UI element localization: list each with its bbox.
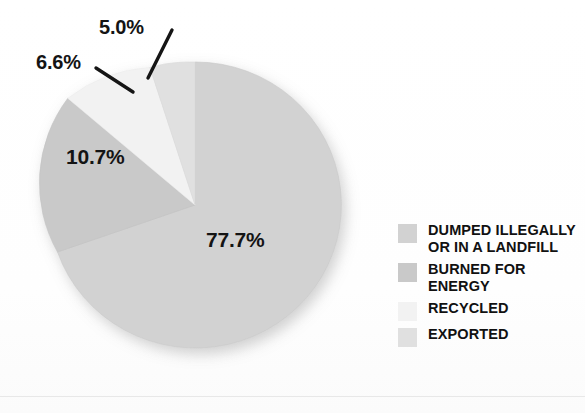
pie-plot-area: 77.7% 10.7% 6.6% 5.0% — [0, 0, 390, 400]
chart-legend: DUMPED ILLEGALLY OR IN A LANDFILL BURNED… — [398, 222, 578, 352]
legend-label-recycled: RECYCLED — [428, 300, 509, 317]
legend-label-dumped: DUMPED ILLEGALLY OR IN A LANDFILL — [428, 222, 578, 256]
legend-swatch-burned — [398, 263, 417, 282]
slice-value-label-recycled: 6.6% — [36, 51, 81, 74]
slice-value-label-burned: 10.7% — [66, 145, 125, 169]
slice-value-label-exported: 5.0% — [99, 16, 144, 39]
legend-label-exported: EXPORTED — [428, 326, 509, 343]
slice-value-label-dumped: 77.7% — [206, 228, 265, 252]
pie-slices-group — [39, 62, 341, 348]
legend-item-dumped[interactable]: DUMPED ILLEGALLY OR IN A LANDFILL — [398, 222, 578, 256]
legend-item-exported[interactable]: EXPORTED — [398, 326, 578, 347]
legend-swatch-dumped — [398, 224, 417, 243]
pie-chart-figure: 77.7% 10.7% 6.6% 5.0% DUMPED ILLEGALLY O… — [0, 0, 585, 413]
legend-item-recycled[interactable]: RECYCLED — [398, 300, 578, 321]
legend-label-burned: BURNED FOR ENERGY — [428, 261, 578, 295]
footer-divider — [0, 396, 585, 397]
legend-item-burned[interactable]: BURNED FOR ENERGY — [398, 261, 578, 295]
legend-swatch-exported — [398, 328, 417, 347]
legend-swatch-recycled — [398, 302, 417, 321]
